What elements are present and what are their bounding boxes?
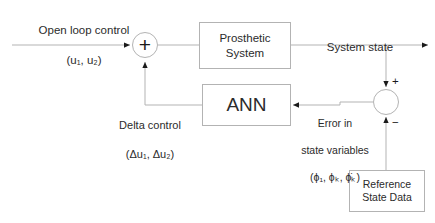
label-error-state-variables: Error in state variables (ϕ₁, ϕₖ, ϕ̇ₖ) (296, 103, 374, 185)
open-loop-line-2: (u₁, u₂) (66, 54, 101, 66)
block-prosthetic-system-label: Prosthetic System (219, 31, 270, 60)
error-junction (373, 89, 399, 115)
prosthetic-line-2: System (226, 47, 264, 59)
reference-line-2: State Data (362, 191, 412, 203)
system-state-text: System state (327, 41, 393, 53)
block-ann-label: ANN (226, 93, 266, 117)
delta-control-line-2: (Δu₁, Δu₂) (126, 148, 174, 160)
label-open-loop-control: Open loop control (u₁, u₂) (14, 8, 154, 68)
block-prosthetic-system: Prosthetic System (199, 22, 291, 69)
prosthetic-line-1: Prosthetic (219, 32, 270, 44)
label-delta-control: Delta control (Δu₁, Δu₂) (98, 104, 202, 161)
error-line-2: state variables (301, 144, 369, 156)
block-ann: ANN (202, 84, 291, 126)
error-line-1: Error in (318, 117, 352, 129)
wire-ann-to-sum (145, 62, 202, 105)
delta-control-line-1: Delta control (119, 119, 181, 131)
block-diagram-canvas: Prosthetic System ANN Reference State Da… (0, 0, 435, 223)
error-junction-minus-sign: − (392, 117, 399, 129)
label-system-state: System state (312, 25, 408, 55)
error-line-3: (ϕ₁, ϕₖ, ϕ̇ₖ) (310, 171, 360, 183)
open-loop-line-1: Open loop control (39, 24, 130, 36)
error-junction-plus-sign: + (392, 76, 399, 88)
